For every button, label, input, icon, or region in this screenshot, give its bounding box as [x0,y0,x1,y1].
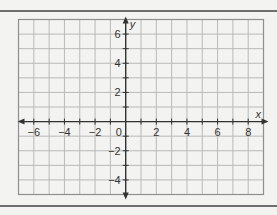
coordinate-grid: −6−4−22468−4−2246 x y 0 [0,0,277,215]
y-tick-label: −4 [108,174,121,186]
x-tick-label: 6 [215,126,221,138]
x-axis-label: x [255,108,262,120]
grid-lines [19,20,264,195]
x-tick-label: −6 [28,126,41,138]
origin-label: 0 [116,126,122,138]
y-tick-label: 6 [115,28,121,40]
x-tick-label: 2 [153,126,159,138]
x-tick-label: 8 [245,126,251,138]
y-tick-label: −2 [108,145,121,157]
x-tick-label: −2 [89,126,102,138]
x-tick-label: −4 [58,126,71,138]
y-tick-label: 2 [115,86,121,98]
y-tick-label: 4 [115,57,121,69]
axes [18,17,269,200]
x-tick-label: 4 [184,126,190,138]
